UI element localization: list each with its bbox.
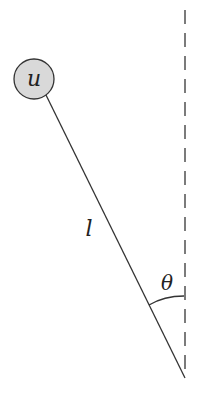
pendulum-diagram: u l θ	[0, 0, 205, 406]
angle-arc	[149, 296, 184, 305]
bob-label: u	[27, 66, 41, 91]
pendulum-rod	[46, 95, 185, 378]
rod-length-label: l	[85, 216, 92, 241]
angle-label: θ	[161, 271, 173, 295]
